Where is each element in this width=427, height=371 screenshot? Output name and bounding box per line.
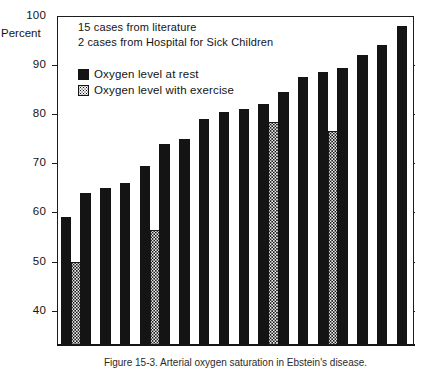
bar-rest bbox=[337, 68, 348, 345]
bar-rest bbox=[239, 109, 250, 345]
bar-rest bbox=[199, 119, 210, 345]
legend-item-exercise: Oxygen level with exercise bbox=[78, 84, 234, 96]
bar-rest bbox=[298, 77, 309, 345]
bar-rest bbox=[80, 193, 91, 345]
figure-caption: Figure 15-3. Arterial oxygen saturation … bbox=[57, 357, 414, 368]
y-tick-label-90: 90 bbox=[12, 58, 46, 70]
y-tick-label-60: 60 bbox=[12, 205, 46, 217]
bar-rest bbox=[179, 139, 190, 345]
bar-rest bbox=[219, 112, 230, 345]
y-tick-label-70: 70 bbox=[12, 156, 46, 168]
legend-label-exercise: Oxygen level with exercise bbox=[94, 84, 234, 96]
y-tick-label-100: 100 bbox=[12, 9, 46, 21]
bar-rest bbox=[61, 217, 72, 345]
bar-rest bbox=[140, 166, 151, 345]
annotation-line-2: 2 cases from Hospital for Sick Children bbox=[78, 36, 273, 48]
y-tick-label-50: 50 bbox=[12, 255, 46, 267]
bar-rest bbox=[397, 26, 408, 345]
bar-rest bbox=[120, 183, 131, 345]
bar-rest bbox=[318, 72, 329, 345]
bar-rest bbox=[377, 45, 388, 345]
bar-series-container bbox=[58, 16, 414, 345]
y-tick-label-40: 40 bbox=[12, 304, 46, 316]
chart-root: Percent 100908070605040 15 cases from li… bbox=[0, 0, 427, 371]
y-axis-unit-label: Percent bbox=[1, 27, 41, 39]
bar-rest bbox=[100, 188, 111, 345]
bar-rest bbox=[278, 92, 289, 345]
legend-label-rest: Oxygen level at rest bbox=[94, 68, 199, 80]
bar-rest bbox=[159, 144, 170, 345]
annotation-line-1: 15 cases from literature bbox=[78, 21, 197, 33]
legend-swatch-stipple-icon bbox=[78, 85, 89, 96]
legend-item-rest: Oxygen level at rest bbox=[78, 68, 199, 80]
legend-swatch-solid-icon bbox=[78, 69, 89, 80]
bar-rest bbox=[357, 55, 368, 345]
bar-rest bbox=[258, 104, 269, 345]
y-tick-label-80: 80 bbox=[12, 107, 46, 119]
